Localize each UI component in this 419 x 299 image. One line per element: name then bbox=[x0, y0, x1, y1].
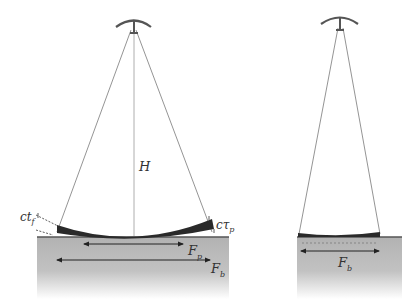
contact-left-label: ctf bbox=[20, 211, 35, 226]
right-cable bbox=[136, 30, 212, 232]
force-b-label-right: Fb bbox=[338, 256, 352, 273]
force-b-label: Fb bbox=[211, 262, 225, 279]
pulley-icon-right bbox=[321, 18, 358, 31]
left-cable-right-panel bbox=[299, 28, 338, 234]
pulley-icon bbox=[116, 21, 151, 34]
force-p-label: Fp bbox=[188, 244, 202, 261]
height-label: H bbox=[139, 160, 150, 173]
contact-dash-left-bottom bbox=[36, 230, 53, 235]
contact-right-label: cτp bbox=[216, 219, 234, 234]
flat-plate-right bbox=[298, 232, 380, 237]
left-cable bbox=[57, 30, 131, 232]
right-cable-right-panel bbox=[343, 28, 380, 234]
contact-dash-left-top bbox=[36, 215, 58, 226]
diagram-canvas bbox=[0, 0, 419, 299]
curved-plate-left bbox=[57, 219, 214, 239]
